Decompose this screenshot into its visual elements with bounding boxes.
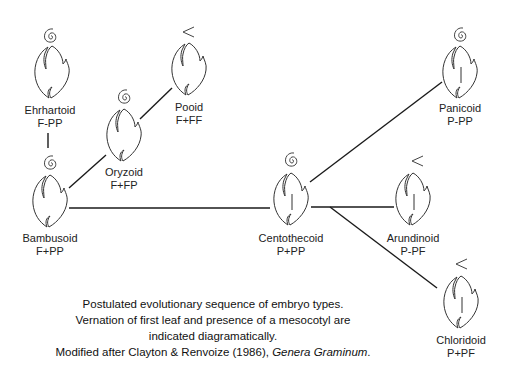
caption-line-3: indicated diagramatically. — [20, 328, 406, 344]
label-arundinoid: Arundinoid P-PF — [368, 232, 458, 258]
chevron-left-icon — [412, 156, 423, 166]
embryo-glyph — [396, 173, 430, 225]
node-oryzoid — [107, 90, 141, 161]
node-formula: P-PP — [415, 115, 505, 128]
node-bambusoid — [33, 156, 67, 227]
label-oryzoid: Oryzoid F+FP — [79, 166, 169, 192]
spiral-icon — [118, 90, 129, 103]
figure-caption: Postulated evolutionary sequence of embr… — [20, 296, 406, 360]
spiral-icon — [285, 153, 296, 166]
caption-line-4: Modified after Clayton & Renvoize (1986)… — [20, 344, 406, 360]
node-panicoid — [443, 28, 477, 98]
caption-line-2: Vernation of first leaf and presence of … — [20, 312, 406, 328]
label-chloridoid: Chloridoid P+PF — [416, 334, 506, 360]
node-name: Oryzoid — [79, 166, 169, 179]
node-formula: P+PP — [246, 245, 336, 258]
node-name: Arundinoid — [368, 232, 458, 245]
label-bambusoid: Bambusoid F+PP — [5, 232, 95, 258]
node-name: Bambusoid — [5, 232, 95, 245]
embryo-glyph — [172, 43, 206, 95]
spiral-icon — [44, 29, 55, 42]
embryo-glyph — [443, 46, 477, 98]
caption-line-1: Postulated evolutionary sequence of embr… — [20, 296, 406, 312]
embryo-glyph — [444, 276, 478, 328]
citation-suffix: . — [367, 346, 370, 358]
node-formula: F-PP — [5, 117, 95, 130]
edge-centothecoid-panicoid — [310, 82, 442, 182]
citation-text: Modified after Clayton & Renvoize (1986)… — [55, 346, 272, 358]
node-ehrhartoid — [35, 29, 69, 98]
spiral-icon — [44, 156, 55, 169]
label-centothecoid: Centothecoid P+PP — [246, 232, 336, 258]
node-formula: F+PP — [5, 245, 95, 258]
embryo-glyph — [35, 46, 69, 98]
chevron-left-icon — [456, 259, 467, 269]
node-chloridoid — [444, 259, 478, 328]
node-centothecoid — [274, 153, 308, 225]
label-ehrhartoid: Ehrhartoid F-PP — [5, 104, 95, 130]
node-name: Pooid — [144, 101, 234, 114]
node-formula: F+FP — [79, 179, 169, 192]
node-formula: P+PF — [416, 347, 506, 360]
spiral-icon — [454, 28, 465, 41]
embryo-glyph — [107, 109, 141, 161]
node-formula: F+FF — [144, 114, 234, 127]
embryo-glyph — [33, 175, 67, 227]
node-pooid — [172, 27, 206, 95]
chevron-left-icon — [183, 27, 194, 37]
node-name: Chloridoid — [416, 334, 506, 347]
node-name: Centothecoid — [246, 232, 336, 245]
book-title: Genera Graminum — [272, 346, 367, 358]
node-arundinoid — [396, 156, 430, 225]
node-name: Ehrhartoid — [5, 104, 95, 117]
embryo-glyph — [274, 173, 308, 225]
label-panicoid: Panicoid P-PP — [415, 102, 505, 128]
node-name: Panicoid — [415, 102, 505, 115]
label-pooid: Pooid F+FF — [144, 101, 234, 127]
node-formula: P-PF — [368, 245, 458, 258]
